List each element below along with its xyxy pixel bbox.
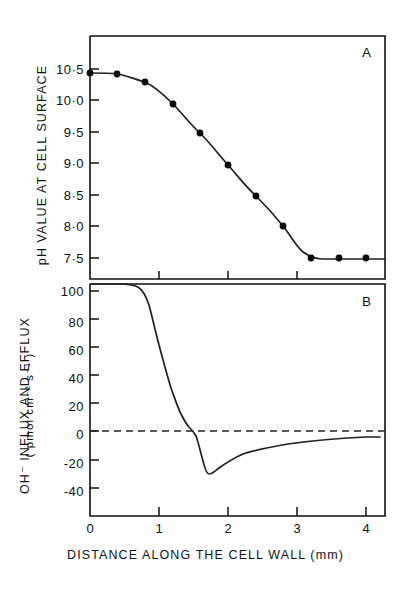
x-axis-title: DISTANCE ALONG THE CELL WALL (mm) (0, 548, 411, 562)
figure-container: pH VALUE AT CELL SURFACE A 10·5 10·0 9·5… (0, 0, 411, 590)
panel-b-plot (0, 0, 411, 590)
